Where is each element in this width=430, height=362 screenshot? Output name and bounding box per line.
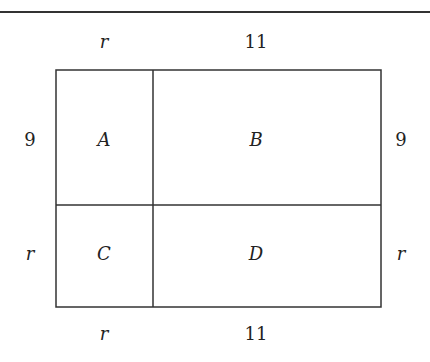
region-b: B [249,129,262,150]
left-label-upper: 9 [24,129,35,150]
right-label-lower: r [397,243,406,264]
left-label-lower: r [26,243,35,264]
top-label-right: 11 [245,31,268,52]
bottom-label-right: 11 [245,323,268,344]
bottom-label-left: r [100,323,109,344]
area-rectangle [0,0,430,362]
outer-rectangle [56,70,381,307]
region-a: A [98,129,111,150]
top-label-left: r [100,31,109,52]
region-c: C [97,243,111,264]
region-d: D [249,243,263,264]
right-label-upper: 9 [395,129,406,150]
